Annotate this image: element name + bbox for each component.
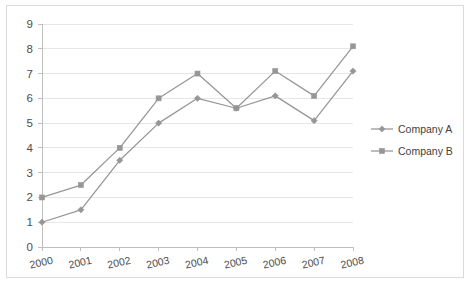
axes-group bbox=[38, 24, 353, 251]
x-axis-tick-label: 2008 bbox=[339, 254, 364, 271]
y-axis-tick-label: 0 bbox=[27, 241, 33, 253]
x-axis-tick-label: 2007 bbox=[301, 254, 326, 271]
datapoint-2004-diamond-marker bbox=[194, 95, 200, 101]
y-axis-tick-label: 9 bbox=[27, 18, 33, 30]
chart-container: 0123456789 20002001200220032004200520062… bbox=[0, 0, 471, 285]
gridlines-group bbox=[42, 24, 353, 222]
x-axis-tick-label: 2002 bbox=[106, 254, 131, 271]
y-axis-tick-label: 5 bbox=[27, 117, 33, 129]
x-axis-tick-label: 2004 bbox=[184, 254, 209, 271]
y-axis-tick-label: 7 bbox=[27, 68, 33, 80]
legend-label: Company A bbox=[398, 123, 452, 135]
legend-entry-2[interactable]: Company B bbox=[371, 145, 453, 157]
chart-legend: Company ACompany B bbox=[371, 123, 453, 157]
y-axis-tick-label: 3 bbox=[27, 167, 33, 179]
x-axis-tick-label: 2005 bbox=[223, 254, 248, 271]
x-axis-tick-labels: 200020012002200320042005200620072008 bbox=[28, 254, 364, 271]
y-axis-tick-labels: 0123456789 bbox=[27, 18, 34, 253]
datapoint-2004-square-marker bbox=[195, 71, 200, 76]
y-axis-tick-label: 4 bbox=[27, 142, 34, 154]
series-line-2 bbox=[42, 46, 353, 197]
legend-1-diamond-marker bbox=[379, 126, 385, 132]
datapoint-2003-square-marker bbox=[156, 96, 161, 101]
line-chart-plot: 0123456789 20002001200220032004200520062… bbox=[0, 0, 471, 285]
y-axis-tick-label: 2 bbox=[27, 191, 33, 203]
datapoint-2005-square-marker bbox=[234, 106, 239, 111]
datapoint-2006-square-marker bbox=[273, 69, 278, 74]
legend-2-square-marker bbox=[380, 149, 385, 154]
series-company-b bbox=[40, 44, 356, 200]
legend-entry-1[interactable]: Company A bbox=[371, 123, 452, 135]
datapoint-2002-square-marker bbox=[117, 145, 122, 150]
datapoint-2008-square-marker bbox=[351, 44, 356, 49]
x-axis-tick-label: 2001 bbox=[67, 254, 92, 271]
x-axis-tick-label: 2006 bbox=[262, 254, 287, 271]
series-group bbox=[39, 44, 356, 226]
datapoint-2007-square-marker bbox=[312, 93, 317, 98]
y-axis-tick-label: 8 bbox=[27, 43, 33, 55]
x-axis-tick-label: 2003 bbox=[145, 254, 170, 271]
datapoint-2001-square-marker bbox=[78, 183, 83, 188]
datapoint-2000-diamond-marker bbox=[39, 219, 45, 225]
y-axis-tick-label: 6 bbox=[27, 92, 33, 104]
series-line-1 bbox=[42, 71, 353, 222]
x-axis-tick-label: 2000 bbox=[28, 254, 53, 271]
legend-label: Company B bbox=[398, 145, 453, 157]
datapoint-2000-square-marker bbox=[40, 195, 45, 200]
y-axis-tick-label: 1 bbox=[27, 216, 33, 228]
